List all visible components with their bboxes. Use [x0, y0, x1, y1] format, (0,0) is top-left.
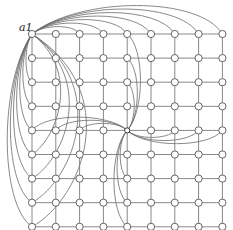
grid-vertex — [147, 103, 154, 110]
grid-vertex — [147, 127, 154, 134]
hub-up-arc — [127, 58, 137, 130]
grid-vertex — [147, 175, 154, 182]
grid-vertex — [171, 55, 178, 62]
grid-vertex — [219, 175, 226, 182]
grid-vertex — [171, 127, 178, 134]
grid-vertex — [76, 175, 83, 182]
grid-vertex — [28, 79, 35, 86]
grid-vertex — [28, 103, 35, 110]
grid-vertex — [52, 55, 59, 62]
grid-vertex — [100, 151, 107, 158]
grid-vertex — [147, 223, 154, 230]
grid-vertex — [124, 79, 131, 86]
grid-vertex — [195, 151, 202, 158]
grid-vertex — [219, 30, 226, 37]
grid-vertex — [219, 151, 226, 158]
arc-edges — [7, 6, 222, 227]
grid-vertex — [124, 175, 131, 182]
grid-vertex — [100, 55, 107, 62]
vertex-label-a1: a1 — [19, 22, 33, 33]
grid-vertex — [171, 175, 178, 182]
grid-vertex — [219, 103, 226, 110]
grid-vertex — [52, 30, 59, 37]
grid-vertex — [28, 223, 35, 230]
grid-vertex — [195, 30, 202, 37]
grid-vertex — [171, 79, 178, 86]
hub-vertex — [125, 128, 130, 133]
grid-vertex — [100, 127, 107, 134]
grid-vertex — [52, 223, 59, 230]
grid-vertex — [52, 127, 59, 134]
grid-vertex — [124, 55, 131, 62]
grid-vertex — [124, 151, 131, 158]
grid-vertex — [52, 199, 59, 206]
grid-vertex — [52, 151, 59, 158]
grid-vertex — [195, 199, 202, 206]
grid-vertex — [76, 127, 83, 134]
grid-graph-diagram — [0, 0, 233, 230]
grid-vertex — [28, 199, 35, 206]
grid-vertex — [124, 103, 131, 110]
grid-vertex — [219, 199, 226, 206]
grid-vertex — [171, 103, 178, 110]
grid-vertex — [147, 199, 154, 206]
grid-vertex — [28, 175, 35, 182]
grid-vertex — [76, 223, 83, 230]
grid-vertex — [147, 30, 154, 37]
grid-vertex — [28, 127, 35, 134]
grid-vertex — [52, 103, 59, 110]
grid-vertex — [76, 55, 83, 62]
grid-vertex — [28, 151, 35, 158]
grid-vertex — [76, 103, 83, 110]
grid-vertex — [195, 79, 202, 86]
grid-vertex — [28, 55, 35, 62]
grid-vertex — [147, 55, 154, 62]
grid-vertex — [76, 199, 83, 206]
grid-vertex — [52, 175, 59, 182]
grid-vertex — [171, 30, 178, 37]
grid-vertex — [147, 79, 154, 86]
hub-down-arc — [117, 130, 127, 202]
grid-nodes — [28, 30, 226, 230]
grid-vertex — [219, 55, 226, 62]
grid-vertex — [171, 223, 178, 230]
grid-vertex — [124, 30, 131, 37]
grid-vertex — [219, 79, 226, 86]
grid-vertex — [100, 223, 107, 230]
grid-vertex — [147, 151, 154, 158]
grid-vertex — [219, 127, 226, 134]
grid-vertex — [100, 30, 107, 37]
a1-inner-arc — [32, 34, 61, 155]
grid-vertex — [124, 223, 131, 230]
grid-vertex — [52, 79, 59, 86]
grid-vertex — [195, 175, 202, 182]
grid-vertex — [76, 79, 83, 86]
grid-vertex — [124, 199, 131, 206]
grid-vertex — [219, 223, 226, 230]
grid-vertex — [100, 79, 107, 86]
grid-vertex — [76, 151, 83, 158]
grid-vertex — [195, 223, 202, 230]
grid-vertex — [171, 199, 178, 206]
grid-vertex — [171, 151, 178, 158]
grid-vertex — [195, 127, 202, 134]
grid-vertex — [100, 199, 107, 206]
grid-vertex — [100, 175, 107, 182]
grid-vertex — [195, 55, 202, 62]
grid-vertex — [195, 103, 202, 110]
grid-vertex — [100, 103, 107, 110]
hub-right-arc — [127, 130, 198, 140]
grid-vertex — [76, 30, 83, 37]
